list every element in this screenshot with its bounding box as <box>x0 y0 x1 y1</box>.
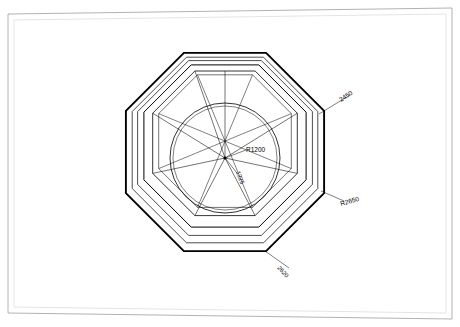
cad-drawing-canvas: 2450 R2650 2620 R1200 1225 <box>0 0 460 327</box>
spoke-sw <box>153 158 225 173</box>
spoke-s <box>195 158 225 216</box>
spoke-se <box>225 158 255 216</box>
dimension-label-2620: 2620 <box>276 265 290 279</box>
radial-spokes-group <box>153 71 298 216</box>
spoke-w <box>153 113 225 158</box>
sheet-border-group <box>8 8 452 319</box>
dimension-label-r2650: R2650 <box>339 195 360 207</box>
cad-svg: 2450 R2650 2620 R1200 1225 <box>0 0 460 327</box>
sheet-inner-border <box>14 14 446 313</box>
leader-line-2620 <box>265 251 289 268</box>
dimension-label-1225: 1225 <box>235 170 245 185</box>
sheet-outer-border <box>8 8 452 319</box>
dimension-label-2450: 2450 <box>338 89 354 103</box>
dimension-label-r1200: R1200 <box>246 146 266 153</box>
spoke-nw <box>195 71 225 158</box>
